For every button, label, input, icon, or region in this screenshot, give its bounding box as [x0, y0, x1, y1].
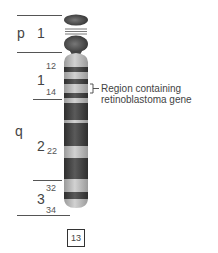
rb-gene-bracket — [90, 84, 99, 93]
p-arm — [64, 36, 88, 53]
chromosome-number-box: 13 — [67, 229, 85, 247]
annotation-line-1: Region containing — [101, 83, 181, 94]
satellite — [64, 15, 88, 26]
chromosome-13-ideogram — [0, 0, 218, 253]
q-arm — [64, 53, 88, 209]
annotation-line-2: retinoblastoma gene — [101, 94, 192, 105]
